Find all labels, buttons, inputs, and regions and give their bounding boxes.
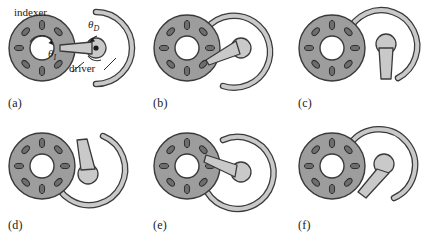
indexer-label-a: indexer [14, 6, 47, 18]
panel-caption-c: (c) [298, 96, 312, 111]
driver-label-a: driver [69, 62, 95, 74]
panel-caption-b: (b) [153, 96, 168, 111]
panel-f-drawing [290, 122, 436, 220]
indexer-disc-c [299, 15, 365, 81]
indexer-disc-e [154, 133, 220, 199]
panel-d: (d) [0, 122, 145, 243]
figure-canvas: indexer driver θI θD (a) [0, 0, 436, 243]
panel-b: (b) [145, 0, 290, 121]
driver-arm-d [77, 139, 98, 184]
panel-d-stage [0, 122, 145, 220]
indexer-disc-d [9, 133, 75, 199]
indexer-disc-f [299, 133, 365, 199]
panel-caption-d: (d) [8, 218, 23, 233]
panel-b-drawing [145, 0, 290, 98]
indexer-disc-b [154, 15, 220, 81]
panel-b-stage [145, 0, 290, 98]
panel-caption-e: (e) [153, 218, 167, 233]
panel-a-stage: indexer driver θI θD [0, 0, 145, 98]
panel-e-stage [145, 122, 290, 220]
panel-caption-f: (f) [298, 218, 311, 233]
theta-driver-label-a: θD [88, 18, 99, 33]
panel-e: (e) [145, 122, 290, 243]
panel-f: (f) [290, 122, 435, 243]
panel-d-drawing [0, 122, 145, 220]
panel-e-drawing [145, 122, 290, 220]
theta-indexer-label-a: θI [48, 47, 56, 62]
panel-c-stage [290, 0, 435, 98]
panel-f-stage [290, 122, 435, 220]
driver-arm-c [376, 34, 396, 79]
panel-caption-a: (a) [8, 96, 22, 111]
panel-c: (c) [290, 0, 435, 121]
panel-a: indexer driver θI θD (a) [0, 0, 145, 121]
panel-c-drawing [290, 0, 436, 98]
